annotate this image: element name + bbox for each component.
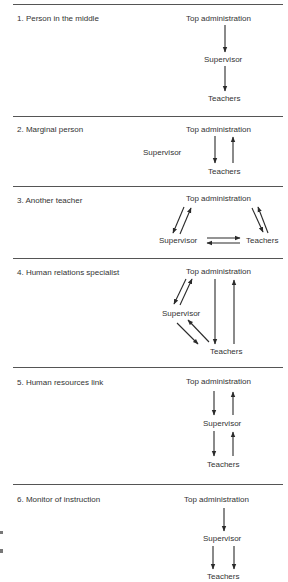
arrows-layer	[0, 0, 288, 582]
panel-4-arrows	[174, 279, 234, 344]
arrow-teachers-to-supervisor	[188, 320, 209, 342]
arrow-supervisor-to-teachers	[177, 323, 198, 344]
panel-3-arrows	[173, 207, 268, 243]
panel-2-arrows	[215, 136, 233, 163]
arrow-top-to-teachers	[252, 208, 263, 232]
panel-5-arrows	[214, 391, 233, 456]
arrow-top-to-supervisor	[174, 279, 186, 304]
arrow-teachers-to-top	[258, 207, 268, 233]
panel-6-arrows	[213, 508, 234, 569]
arrow-supervisor-to-top	[180, 279, 192, 305]
